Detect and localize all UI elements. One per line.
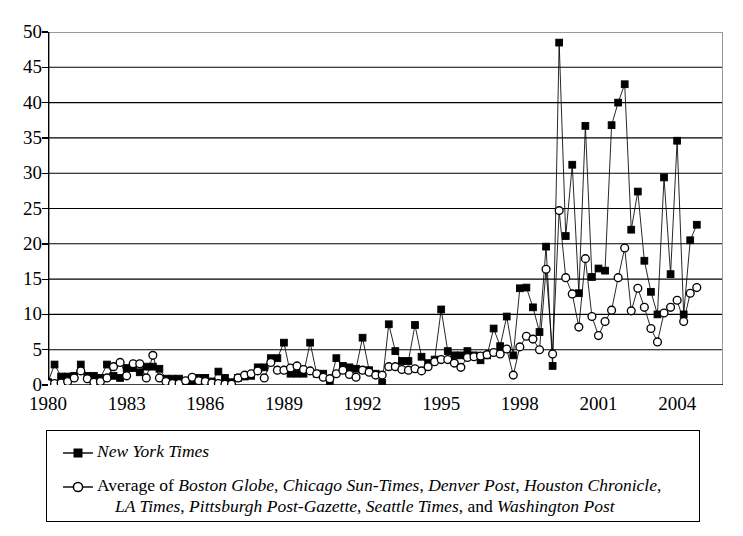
y-tick-label: 15 [4,269,42,288]
data-point [281,339,288,346]
data-point [608,306,616,314]
data-point [575,323,583,331]
data-point [674,137,681,144]
data-point [581,255,589,263]
data-point [392,348,399,355]
data-point [503,345,511,353]
data-point [634,284,642,292]
data-point [149,351,157,359]
data-point [628,226,635,233]
data-point [614,274,622,282]
chart-legend: New York Times Average of Boston Globe, … [46,430,700,522]
legend-nyt-title: New York Times [97,441,209,461]
chart-svg [48,32,723,385]
y-tick-label: 50 [4,22,42,41]
data-point [136,360,144,368]
data-point [543,243,550,250]
data-point [667,303,675,311]
x-tick-label: 2004 [647,393,707,415]
data-point [608,122,615,129]
y-tick-label: 5 [4,340,42,359]
data-point [385,321,392,328]
series-markers-2 [48,207,701,385]
data-point [601,318,609,326]
y-tick-label: 45 [4,57,42,76]
data-point [51,361,58,368]
data-point [640,303,648,311]
x-tick-label: 1980 [18,393,78,415]
data-point [647,325,655,333]
legend-entry-nyt: New York Times [61,441,209,463]
data-point [516,343,524,351]
data-point [267,359,275,367]
x-axis-labels: 198019831986198919921995199820012004 [0,393,743,421]
data-point [602,267,609,274]
data-point [627,307,635,315]
data-point [569,161,576,168]
data-point [634,188,641,195]
y-tick-label: 10 [4,304,42,323]
y-axis-labels: 05101520253035404550 [0,32,42,385]
data-point [562,233,569,240]
data-point [542,265,550,273]
data-point [378,371,386,379]
x-tick-label: 1992 [333,393,393,415]
data-point [103,374,111,382]
legend-entry-average: Average of Boston Globe, Chicago Sun-Tim… [61,475,697,517]
data-point [530,304,537,311]
data-point [641,257,648,264]
data-point [693,221,700,228]
data-point [673,296,681,304]
series-markers-1 [48,39,700,385]
data-point [536,346,544,354]
data-point [661,174,668,181]
data-point [562,274,570,282]
data-point [352,373,360,381]
data-point [509,371,517,379]
data-point [621,244,629,252]
x-tick-label: 1986 [175,393,235,415]
y-tick-label: 40 [4,93,42,112]
data-point [654,338,662,346]
data-point [582,123,589,130]
x-tick-label: 2001 [568,393,628,415]
data-point [555,207,563,215]
legend-label-average: Average of Boston Globe, Chicago Sun-Tim… [95,475,697,517]
legend-average-line2: LA Times, Pittsburgh Post-Gazette, Seatt… [97,496,697,517]
x-tick-label: 1989 [254,393,314,415]
data-point [457,363,465,371]
data-point [333,355,340,362]
data-point [260,374,268,382]
data-point [490,325,497,332]
data-point [549,363,556,370]
data-point [405,358,412,365]
x-tick-label: 1998 [490,393,550,415]
y-tick-label: 20 [4,234,42,253]
y-tick-label: 30 [4,163,42,182]
data-point [615,99,622,106]
data-point [215,368,222,375]
data-point [568,290,576,298]
series-line-2 [48,211,697,385]
data-point [523,284,530,291]
data-point [77,367,85,375]
data-point [660,309,668,317]
data-point [667,271,674,278]
data-point [686,289,694,297]
data-point [621,81,628,88]
data-point [595,332,603,340]
y-tick-label: 35 [4,128,42,147]
x-tick-label: 1995 [411,393,471,415]
data-point [529,335,537,343]
legend-label-nyt: New York Times [95,441,209,462]
data-point [536,329,543,336]
data-point [228,380,236,385]
data-point [588,313,596,321]
x-tick-label: 1983 [97,393,157,415]
data-point [359,334,366,341]
data-point [589,274,596,281]
data-point [254,367,262,375]
y-tick-label: 0 [4,375,42,394]
open-circle-marker-icon [61,477,95,497]
data-point [142,374,150,382]
